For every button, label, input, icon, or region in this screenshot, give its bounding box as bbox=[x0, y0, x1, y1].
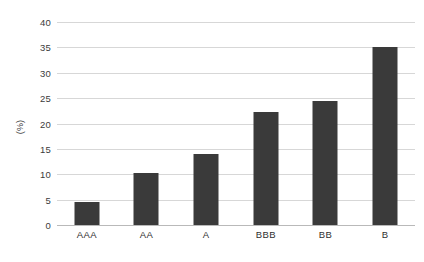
bar-slot bbox=[296, 22, 356, 225]
bar[interactable] bbox=[373, 47, 398, 225]
x-axis-tick-label: A bbox=[203, 229, 210, 240]
bar[interactable] bbox=[313, 101, 338, 225]
gridline bbox=[57, 225, 415, 226]
bar[interactable] bbox=[194, 154, 219, 225]
bar[interactable] bbox=[134, 173, 159, 225]
bar-slot bbox=[117, 22, 177, 225]
x-axis-tick-label: B bbox=[382, 229, 389, 240]
y-axis-tick-label: 25 bbox=[40, 93, 51, 104]
bar-chart: (%) 0510152025303540 AAAAAABBBBBB bbox=[0, 0, 424, 262]
y-axis-tick-label: 35 bbox=[40, 42, 51, 53]
y-axis-tick-label: 15 bbox=[40, 143, 51, 154]
x-axis-tick-label: AA bbox=[140, 229, 153, 240]
bar-slot bbox=[355, 22, 415, 225]
x-axis-labels: AAAAAABBBBBB bbox=[57, 229, 415, 249]
y-axis-tick-label: 0 bbox=[46, 220, 51, 231]
y-axis-tick-label: 30 bbox=[40, 67, 51, 78]
bars-layer bbox=[57, 22, 415, 225]
x-axis-tick-label: BB bbox=[319, 229, 332, 240]
y-axis-title: (%) bbox=[5, 113, 35, 141]
y-axis-tick-label: 40 bbox=[40, 17, 51, 28]
bar[interactable] bbox=[253, 112, 278, 225]
plot-area: 0510152025303540 bbox=[57, 22, 415, 225]
bar-slot bbox=[176, 22, 236, 225]
x-axis-tick-label: BBB bbox=[256, 229, 276, 240]
y-axis-tick-label: 10 bbox=[40, 169, 51, 180]
y-axis-tick-label: 20 bbox=[40, 118, 51, 129]
bar-slot bbox=[236, 22, 296, 225]
y-axis-tick-label: 5 bbox=[46, 194, 51, 205]
x-axis-tick-label: AAA bbox=[77, 229, 97, 240]
bar-slot bbox=[57, 22, 117, 225]
bar[interactable] bbox=[74, 202, 99, 225]
